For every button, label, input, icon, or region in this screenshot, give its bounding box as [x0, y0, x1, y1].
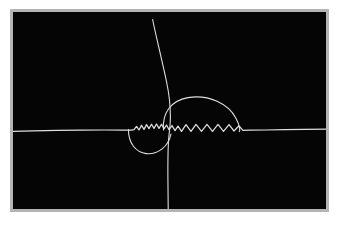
figure-plot-area: [13, 12, 326, 209]
figure-frame: [10, 9, 329, 212]
lower-left-semicircle-path: [128, 130, 171, 154]
steep-vertical-curve-path: [153, 20, 171, 210]
figure-page: [0, 0, 339, 226]
sketch-canvas: [13, 12, 326, 209]
